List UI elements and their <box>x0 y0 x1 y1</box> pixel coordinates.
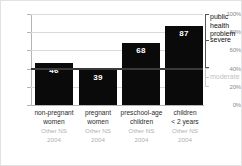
bar-value-preschool-age-children: 68 <box>122 46 160 55</box>
x-label-children-under-2: children < 2 years Other NS 2004 <box>161 109 209 144</box>
x-label-source: Other NS <box>161 127 209 136</box>
bracket-tick-severe <box>205 40 209 41</box>
bracket-label-severe: severe <box>210 36 231 45</box>
anemia-prevalence-chart: 100% 80% 60% 40% 20% 0% 46 39 68 87 <box>0 0 242 166</box>
bracket-cap-top <box>205 14 209 15</box>
bracket-spine <box>205 14 206 68</box>
threshold-line-severe-40 <box>31 68 203 70</box>
severity-legend: public health problem severe moderate <box>205 14 242 106</box>
gridline-100 <box>31 14 203 15</box>
bracket-label-public-health-problem: public health problem <box>210 13 235 39</box>
bracket-cap-top <box>205 68 209 69</box>
plot-area: 46 39 68 87 <box>31 14 203 105</box>
bar-children-under-2: 87 <box>165 26 203 105</box>
x-label-year: 2004 <box>161 136 209 145</box>
bar-value-children-under-2: 87 <box>165 29 203 38</box>
x-axis-labels: non-pregnant women Other NS 2004 pregnan… <box>31 109 203 163</box>
x-axis-line <box>31 105 204 106</box>
bracket-label-moderate: moderate <box>210 73 240 82</box>
bracket-tick-moderate <box>205 77 209 78</box>
bar-preschool-age-children: 68 <box>122 43 160 105</box>
bar-value-pregnant-women: 39 <box>79 73 117 82</box>
x-label-line1: children <box>161 109 209 118</box>
bar-pregnant-women: 39 <box>79 70 117 106</box>
x-label-line2: < 2 years <box>161 118 209 127</box>
bracket-cap-bottom <box>205 86 209 87</box>
